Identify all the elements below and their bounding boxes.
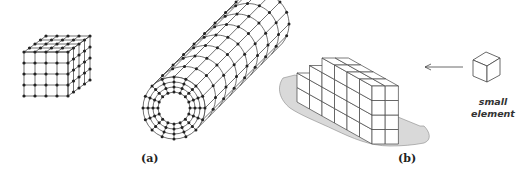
panel-label-b: (b) <box>398 152 416 165</box>
arrow-to-element <box>425 64 463 70</box>
panel-label-a: (a) <box>141 152 159 165</box>
small-element-label: small element <box>468 96 518 120</box>
callout-line-1: small <box>468 96 518 108</box>
callout-line-2: element <box>468 108 518 120</box>
figure-canvas <box>0 0 523 175</box>
cube-mesh <box>22 34 91 97</box>
small-element-cube-icon <box>473 52 500 82</box>
hollow-cylinder-mesh <box>142 0 291 141</box>
block-structure <box>279 58 429 146</box>
